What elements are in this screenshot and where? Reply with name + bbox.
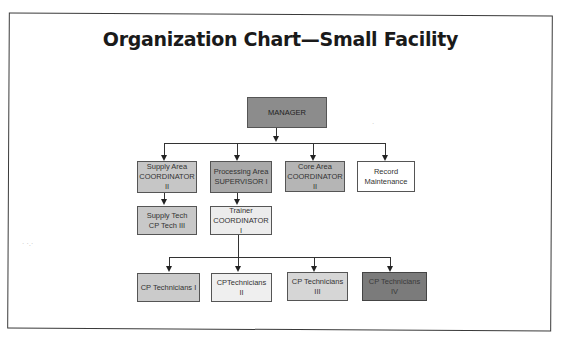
- node-manager: MANAGER: [247, 97, 327, 128]
- arrow-head: [235, 266, 241, 272]
- node-cp-technicians-1: CP Technicians I: [137, 273, 200, 302]
- node-label: Processing Area SUPERVISOR I: [214, 167, 269, 187]
- node-processing-area-supervisor: Processing Area SUPERVISOR I: [210, 161, 272, 193]
- node-label: CPTechnicians II: [214, 278, 269, 298]
- scan-speck: · ·.·: [22, 240, 33, 248]
- connector-line: [164, 143, 165, 155]
- node-supply-tech: Supply Tech CP Tech III: [137, 206, 197, 235]
- node-label: CP Technicians III: [290, 277, 345, 297]
- node-trainer-coordinator: Trainer COORDINATOR I: [210, 206, 272, 235]
- connector-line: [238, 235, 239, 257]
- connector-line: [313, 143, 314, 155]
- node-core-area-coordinator: Core Area COORDINATOR II: [285, 161, 345, 192]
- node-label: Supply Area COORDINATOR II: [139, 162, 195, 192]
- arrow-head: [161, 199, 167, 205]
- arrow-head: [166, 266, 172, 272]
- arrow-head: [234, 199, 240, 205]
- node-label: Trainer COORDINATOR I: [213, 206, 269, 236]
- node-label: Supply Tech CP Tech III: [147, 211, 188, 231]
- node-cp-technicians-4: CP Technicians IV: [362, 272, 427, 301]
- node-label: MANAGER: [268, 108, 306, 118]
- page-frame: [7, 13, 553, 332]
- connector-bus: [169, 257, 391, 258]
- chart-title: Organization Chart—Small Facility: [0, 28, 561, 50]
- node-record-maintenance: Record Maintenance: [357, 161, 415, 192]
- node-label: CP Technicians IV: [365, 277, 424, 297]
- node-supply-area-coordinator: Supply Area COORDINATOR II: [137, 161, 197, 193]
- connector-line: [237, 143, 238, 155]
- node-label: Record Maintenance: [365, 167, 408, 187]
- node-cp-technicians-2: CPTechnicians II: [211, 273, 272, 302]
- connector-bus: [164, 143, 386, 144]
- node-cp-technicians-3: CP Technicians III: [287, 272, 348, 301]
- connector-line: [385, 143, 386, 155]
- arrow-head: [273, 136, 279, 142]
- scan-speck: ·: [372, 120, 374, 128]
- node-label: Core Area COORDINATOR II: [287, 162, 343, 192]
- node-label: CP Technicians I: [141, 283, 197, 293]
